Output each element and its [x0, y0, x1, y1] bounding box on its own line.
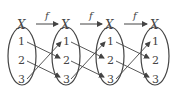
map-arrow-1-to-2-a — [27, 42, 60, 58]
element-1-set-1: 1 — [18, 35, 25, 48]
function-label-2: f — [88, 10, 95, 21]
set-label-4: X — [149, 18, 159, 32]
map-arrow-3-to-1-b — [71, 42, 105, 79]
element-3-set-4: 3 — [152, 73, 159, 86]
element-3-set-1: 3 — [18, 73, 25, 86]
map-arrow-1-to-2-c — [116, 42, 149, 58]
function-composition-diagram: X X X X f f f 1 2 3 1 2 3 1 2 3 1 2 3 — [0, 0, 183, 96]
element-2-set-4: 2 — [152, 54, 159, 67]
map-arrow-1-to-2-b — [71, 42, 104, 58]
set-label-1: X — [16, 18, 26, 32]
element-1-set-4: 1 — [152, 35, 159, 48]
element-3-set-2: 3 — [63, 73, 70, 86]
set-label-3: X — [104, 18, 114, 32]
set-label-2: X — [60, 18, 70, 32]
map-arrow-2-to-3-a — [27, 61, 60, 77]
function-label-1: f — [44, 10, 51, 21]
map-arrow-2-to-3-b — [71, 61, 104, 77]
element-3-set-3: 3 — [107, 73, 114, 86]
map-arrow-3-to-1-c — [116, 42, 150, 79]
element-1-set-2: 1 — [63, 35, 70, 48]
element-1-set-3: 1 — [107, 35, 114, 48]
map-arrow-3-to-1-a — [27, 42, 61, 79]
element-2-set-1: 2 — [18, 54, 25, 67]
element-2-set-3: 2 — [107, 54, 114, 67]
element-2-set-2: 2 — [63, 54, 70, 67]
function-label-3: f — [132, 10, 139, 21]
